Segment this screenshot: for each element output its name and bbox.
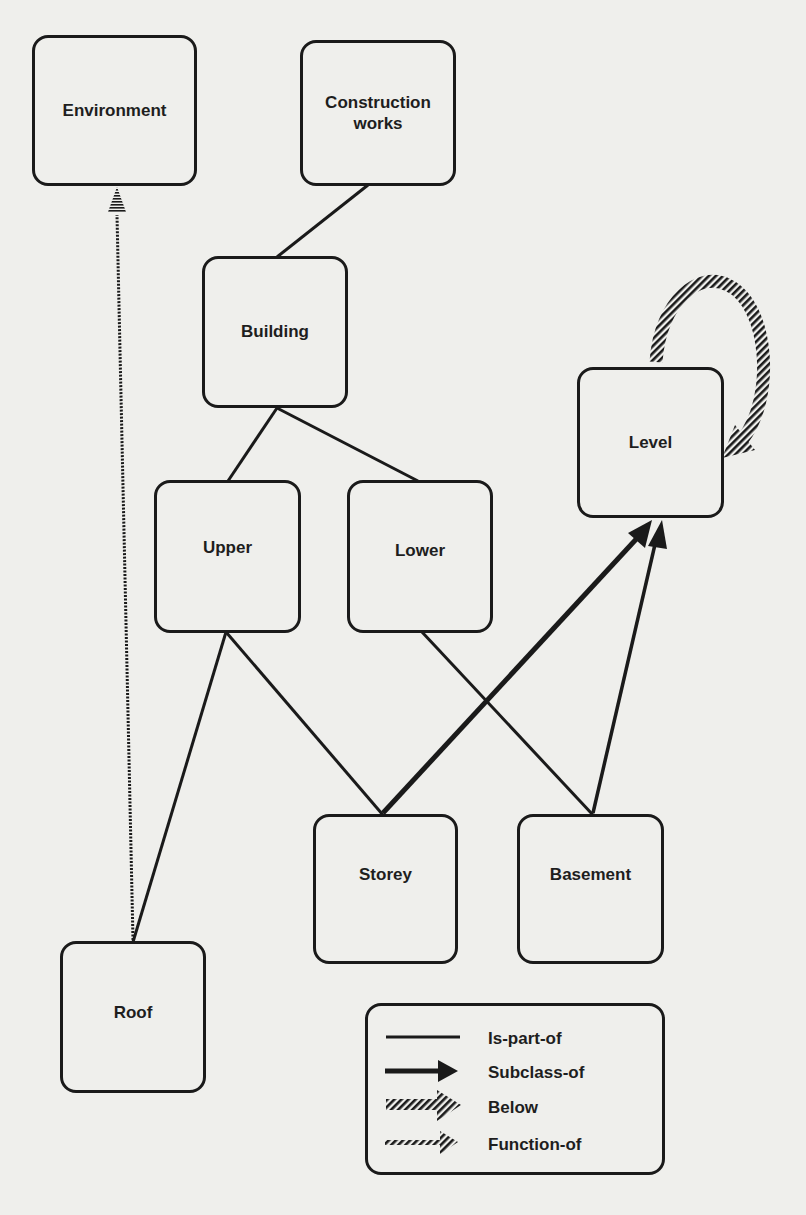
node-label: Basement: [550, 864, 631, 885]
legend-label-function-of: Function-of: [488, 1135, 581, 1155]
edge-roof-upper: [133, 632, 226, 942]
node-lower: Lower: [347, 480, 493, 633]
node-label: Level: [629, 432, 672, 453]
edge-storey-upper: [226, 632, 383, 815]
node-building: Building: [202, 256, 348, 408]
edge-basement-lower: [422, 632, 593, 815]
node-upper: Upper: [154, 480, 301, 633]
edge-lower-building: [277, 408, 418, 481]
legend-label-below: Below: [488, 1098, 538, 1118]
legend-label-is-part-of: Is-part-of: [488, 1029, 562, 1049]
node-label: Construction works: [325, 92, 431, 135]
node-label: Building: [241, 321, 309, 342]
node-construction-works: Construction works: [300, 40, 456, 186]
edge-basement-level: [593, 540, 656, 813]
edge-building-construction: [277, 185, 368, 257]
node-label: Lower: [395, 540, 445, 561]
node-environment: Environment: [32, 35, 197, 186]
node-label: Upper: [203, 537, 252, 558]
node-label: Environment: [63, 100, 167, 121]
node-label: Storey: [359, 864, 412, 885]
legend-label-subclass-of: Subclass-of: [488, 1063, 584, 1083]
node-storey: Storey: [313, 814, 458, 964]
node-roof: Roof: [60, 941, 206, 1093]
edge-upper-building: [228, 408, 277, 481]
node-basement: Basement: [517, 814, 664, 964]
hatched-arrowhead-icon: [108, 187, 126, 212]
legend: Is-part-of Subclass-of Below Function-of: [365, 1003, 665, 1175]
function-of-edge: [108, 187, 133, 940]
node-level: Level: [577, 367, 724, 518]
node-label: Roof: [114, 1002, 153, 1023]
